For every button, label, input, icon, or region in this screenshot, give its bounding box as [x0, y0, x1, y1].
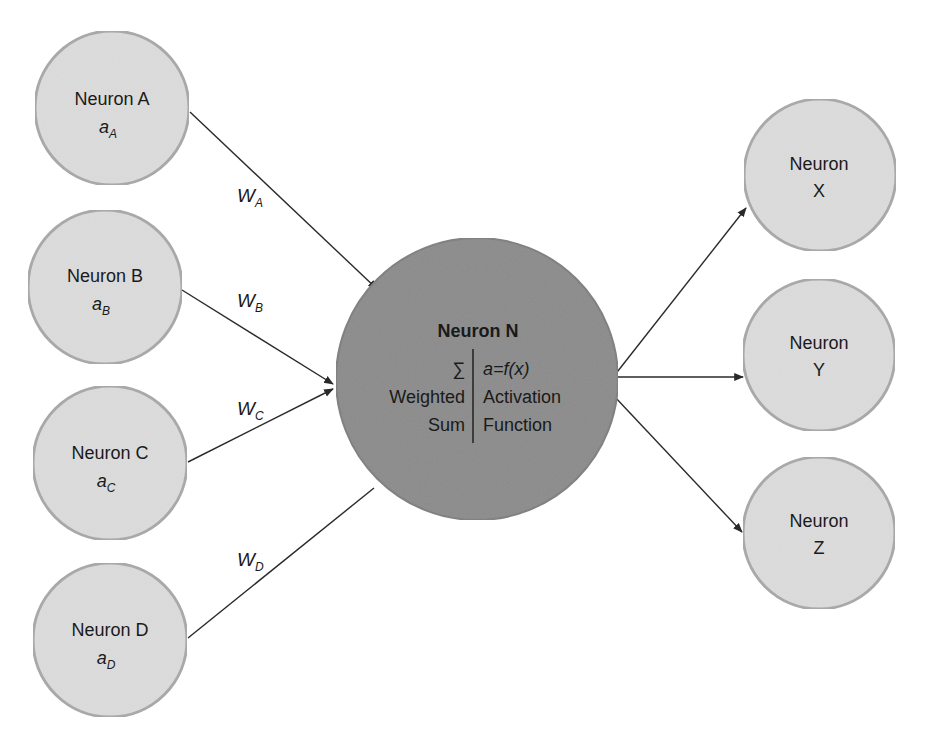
neuron-y-label: Neuron	[789, 333, 848, 353]
neuron-a-label: Neuron A	[74, 89, 149, 109]
output-edges	[614, 208, 746, 532]
neuron-z-label: Neuron	[789, 511, 848, 531]
input-neuron-d: Neuron D aD	[33, 563, 187, 717]
edge-n-to-z	[614, 396, 742, 532]
weight-labels: WA WB WC WD	[237, 185, 264, 574]
output-neuron-y: Neuron Y	[743, 279, 895, 431]
neuron-x-label: Neuron	[789, 154, 848, 174]
output-neuron-x: Neuron X	[744, 99, 896, 251]
edge-a-to-n	[190, 112, 377, 289]
weight-label-a: WA	[237, 185, 263, 210]
function-label: Function	[483, 415, 552, 435]
weighted-label: Weighted	[389, 387, 465, 407]
neuron-z-id: Z	[814, 538, 825, 558]
weight-label-c: WC	[237, 398, 264, 423]
weight-label-d: WD	[237, 549, 264, 574]
input-neuron-a: Neuron A aA	[35, 31, 189, 185]
neural-network-diagram: WA WB WC WD Neuron A aA Neuron B aB Neur…	[0, 0, 927, 751]
neuron-y-id: Y	[813, 360, 825, 380]
sum-symbol: ∑	[452, 359, 465, 379]
edge-n-to-x	[614, 208, 746, 376]
input-neuron-c: Neuron C aC	[33, 386, 187, 540]
edge-d-to-n	[188, 488, 374, 638]
neuron-d-label: Neuron D	[71, 620, 148, 640]
neuron-b-label: Neuron B	[67, 266, 143, 286]
central-neuron-n: Neuron N ∑ Weighted Sum a=f(x) Activatio…	[336, 238, 618, 520]
neuron-x-id: X	[813, 181, 825, 201]
activation-formula: a=f(x)	[483, 359, 530, 379]
neuron-c-label: Neuron C	[71, 443, 148, 463]
sum-label: Sum	[428, 415, 465, 435]
activation-label: Activation	[483, 387, 561, 407]
edge-c-to-n	[188, 389, 333, 462]
neuron-n-title: Neuron N	[438, 321, 519, 341]
weight-label-b: WB	[237, 290, 263, 315]
input-neuron-b: Neuron B aB	[28, 210, 182, 364]
output-neuron-z: Neuron Z	[743, 457, 895, 609]
